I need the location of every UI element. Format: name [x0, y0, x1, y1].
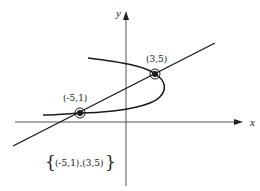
line-curve	[13, 43, 215, 146]
y-axis-arrow-icon	[123, 11, 129, 20]
solution-set: { (-5,1),(3,5) }	[45, 152, 116, 172]
x-axis-arrow-icon	[234, 119, 243, 125]
parabola-curve	[43, 58, 164, 115]
intersection-point-3-5	[150, 69, 160, 79]
y-axis	[123, 11, 129, 186]
point-label-neg5-1: (-5,1)	[63, 93, 87, 103]
graph-canvas: x y (3,5) (-5,1) { (-5,1),(3,5) }	[0, 0, 260, 191]
x-axis-label: x	[249, 116, 255, 128]
point-label-3-5: (3,5)	[146, 54, 167, 64]
y-axis-label: y	[115, 7, 121, 19]
solution-set-text: (-5,1),(3,5)	[55, 158, 104, 168]
x-axis	[15, 119, 243, 125]
solution-set-close-brace: }	[105, 152, 116, 172]
